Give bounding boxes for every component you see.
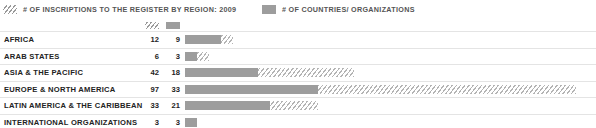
chart-row: LATIN AMERICA & THE CARIBBEAN3321 xyxy=(0,97,596,114)
value-inscriptions: 42 xyxy=(139,65,159,81)
column-header-solid-swatch-icon xyxy=(166,22,180,29)
value-inscriptions: 97 xyxy=(139,82,159,98)
bar-group xyxy=(185,68,596,77)
bar-group xyxy=(185,52,596,61)
chart-row: AFRICA129 xyxy=(0,31,596,48)
row-label: INTERNATIONAL ORGANIZATIONS xyxy=(4,115,137,128)
chart-container: # OF INSCRIPTIONS TO THE REGISTER BY REG… xyxy=(0,0,596,127)
chart-row: ARAB STATES63 xyxy=(0,48,596,65)
chart-row: ASIA & THE PACIFIC4218 xyxy=(0,64,596,81)
bar-countries xyxy=(185,101,270,110)
row-label: AFRICA xyxy=(4,32,34,48)
legend-item-countries: # OF COUNTRIES/ ORGANIZATIONS xyxy=(262,0,415,18)
value-countries: 3 xyxy=(160,115,180,128)
bar-group xyxy=(185,101,596,110)
value-inscriptions: 3 xyxy=(139,115,159,128)
bar-group xyxy=(185,118,596,127)
value-inscriptions: 6 xyxy=(139,49,159,65)
bar-countries xyxy=(185,68,258,77)
legend-item-inscriptions: # OF INSCRIPTIONS TO THE REGISTER BY REG… xyxy=(3,0,236,18)
bar-group xyxy=(185,85,596,94)
bar-countries xyxy=(185,85,318,94)
row-label: ASIA & THE PACIFIC xyxy=(4,65,83,81)
value-countries: 21 xyxy=(160,98,180,114)
row-label: ARAB STATES xyxy=(4,49,60,65)
chart-legend: # OF INSCRIPTIONS TO THE REGISTER BY REG… xyxy=(0,0,596,18)
bar-countries xyxy=(185,35,221,44)
value-countries: 18 xyxy=(160,65,180,81)
value-countries: 33 xyxy=(160,82,180,98)
solid-swatch-icon xyxy=(262,5,276,14)
chart-row: INTERNATIONAL ORGANIZATIONS33 xyxy=(0,114,596,128)
value-inscriptions: 33 xyxy=(139,98,159,114)
bar-group xyxy=(185,35,596,44)
bar-countries xyxy=(185,118,197,127)
bar-countries xyxy=(185,52,197,61)
chart-row: EUROPE & NORTH AMERICA9733 xyxy=(0,81,596,98)
value-countries: 9 xyxy=(160,32,180,48)
value-inscriptions: 12 xyxy=(139,32,159,48)
value-countries: 3 xyxy=(160,49,180,65)
column-header-hatch-swatch-icon xyxy=(145,22,159,29)
column-header-swatches xyxy=(0,22,596,30)
hatch-swatch-icon xyxy=(3,5,17,14)
legend-label-inscriptions: # OF INSCRIPTIONS TO THE REGISTER BY REG… xyxy=(23,5,236,14)
legend-label-countries: # OF COUNTRIES/ ORGANIZATIONS xyxy=(282,5,415,14)
row-label: EUROPE & NORTH AMERICA xyxy=(4,82,116,98)
row-label: LATIN AMERICA & THE CARIBBEAN xyxy=(4,98,143,114)
chart-rows: AFRICA129ARAB STATES63ASIA & THE PACIFIC… xyxy=(0,31,596,127)
